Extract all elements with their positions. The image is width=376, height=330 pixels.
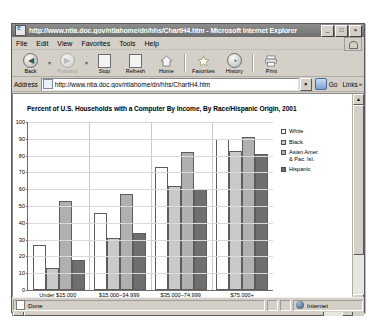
y-axis-tick-label: 100 [16, 119, 25, 125]
print-button[interactable]: Print [256, 52, 287, 74]
y-axis-tick-mark [26, 256, 28, 257]
y-axis-tick-label: 70 [19, 169, 25, 175]
grid-line [28, 240, 273, 241]
grid-line [28, 206, 273, 207]
legend-swatch-icon [281, 129, 286, 134]
grid-line [28, 156, 273, 157]
status-message: Done [28, 302, 43, 309]
maximize-button[interactable]: □ [335, 25, 348, 37]
links-button[interactable]: Links [342, 81, 357, 88]
legend-label: White [289, 128, 303, 135]
bar [120, 194, 133, 290]
chart-area: 1009080706050403020100 Under $15,000$15,… [27, 122, 273, 291]
address-label: Address [14, 81, 38, 88]
menu-item-favorites[interactable]: Favorites [81, 40, 110, 47]
y-axis-tick-label: 0 [22, 287, 25, 293]
y-axis-tick-mark [26, 240, 28, 241]
menu-item-view[interactable]: View [57, 40, 72, 47]
grid-line [28, 172, 273, 173]
forward-button[interactable]: ▶ Forward [52, 52, 83, 74]
menu-bar: File Edit View Favorites Tools Help [12, 37, 364, 50]
legend-item: White [281, 128, 319, 135]
y-axis-tick-label: 10 [19, 270, 25, 276]
status-pane-b [280, 300, 291, 311]
bar [46, 268, 59, 290]
page-icon [43, 79, 53, 89]
bar [72, 260, 85, 290]
menu-item-tools[interactable]: Tools [119, 40, 135, 47]
legend-label: Black [289, 139, 303, 146]
window-controls: _ □ × [321, 25, 363, 37]
refresh-button[interactable]: Refresh [120, 52, 151, 74]
y-axis-tick-mark [26, 223, 28, 224]
legend-item: Hispanic [281, 166, 319, 173]
stop-button[interactable]: Stop [89, 52, 120, 74]
y-axis-tick-label: 20 [19, 253, 25, 259]
y-axis-tick-label: 30 [19, 237, 25, 243]
bar [94, 213, 107, 290]
y-axis-tick-mark [26, 206, 28, 207]
legend-label: Asian Amer. & Pac. Isl. [289, 149, 319, 162]
stop-icon [97, 53, 112, 68]
address-input[interactable]: http://www.ntia.doc.gov/ntiahome/dn/hhs/… [41, 78, 299, 91]
refresh-icon [128, 53, 143, 68]
history-button[interactable]: ◔ History [219, 52, 250, 74]
address-bar: Address http://www.ntia.doc.gov/ntiahome… [12, 77, 364, 92]
y-axis-tick-mark [26, 122, 28, 123]
grid-line [28, 189, 273, 190]
chart-legend: WhiteBlackAsian Amer. & Pac. Isl.Hispani… [281, 128, 319, 177]
home-button[interactable]: Home [151, 52, 182, 74]
close-button[interactable]: × [349, 25, 362, 37]
favorites-button[interactable]: Favorites [188, 52, 219, 74]
go-button[interactable]: Go [315, 78, 338, 90]
vertical-scrollbar[interactable]: ▲ ▼ [352, 94, 364, 305]
status-message-pane: Done [13, 300, 265, 311]
window-title: http://www.ntia.doc.gov/ntiahome/dn/hhs/… [29, 27, 321, 34]
title-bar: http://www.ntia.doc.gov/ntiahome/dn/hhs/… [12, 24, 364, 37]
address-dropdown-icon[interactable]: ▼ [300, 78, 312, 91]
page-content: Percent of U.S. Households with a Comput… [12, 93, 364, 316]
chart-page: Percent of U.S. Households with a Comput… [13, 94, 352, 304]
bar [59, 201, 72, 290]
favorites-button-label: Favorites [192, 68, 215, 74]
legend-label: Hispanic [289, 166, 310, 173]
back-button[interactable]: ◀ Back [15, 52, 46, 74]
security-zone-pane: Internet [293, 300, 363, 311]
y-axis-tick-mark [26, 172, 28, 173]
bar [216, 139, 229, 290]
y-axis-tick-label: 60 [19, 186, 25, 192]
y-axis-tick-mark [26, 139, 28, 140]
back-arrow-icon: ◀ [23, 53, 38, 68]
menu-item-edit[interactable]: Edit [36, 40, 48, 47]
menu-item-file[interactable]: File [16, 40, 27, 47]
vertical-scroll-thumb[interactable] [353, 105, 364, 255]
menu-item-help[interactable]: Help [145, 40, 159, 47]
y-axis-tick-label: 80 [19, 153, 25, 159]
star-icon [196, 53, 211, 68]
y-axis-tick-label: 50 [19, 203, 25, 209]
document-icon [16, 300, 25, 310]
grid-line [28, 122, 273, 123]
screenshot-root: http://www.ntia.doc.gov/ntiahome/dn/hhs/… [0, 0, 376, 330]
grid-line [28, 256, 273, 257]
star-icon-svg [197, 55, 210, 67]
forward-button-label: Forward [57, 68, 77, 74]
bar [33, 245, 46, 290]
grid-line [28, 223, 273, 224]
bar [155, 167, 168, 290]
scroll-up-button[interactable]: ▲ [353, 94, 364, 105]
globe-icon [296, 301, 304, 309]
links-chevron-icon[interactable]: » [359, 81, 362, 87]
y-axis-tick-mark [26, 156, 28, 157]
home-button-label: Home [159, 68, 174, 74]
legend-item: Asian Amer. & Pac. Isl. [281, 149, 319, 162]
minimize-button[interactable]: _ [321, 25, 334, 37]
navigation-toolbar: ◀ Back ▼ ▶ Forward ▼ Stop Refresh [12, 50, 364, 77]
grid-line [28, 273, 273, 274]
browser-window: http://www.ntia.doc.gov/ntiahome/dn/hhs/… [11, 23, 365, 313]
stop-button-label: Stop [99, 68, 110, 74]
go-button-label: Go [329, 81, 338, 88]
legend-swatch-icon [281, 140, 286, 145]
y-axis-tick-mark [26, 273, 28, 274]
y-axis-tick-label: 90 [19, 136, 25, 142]
